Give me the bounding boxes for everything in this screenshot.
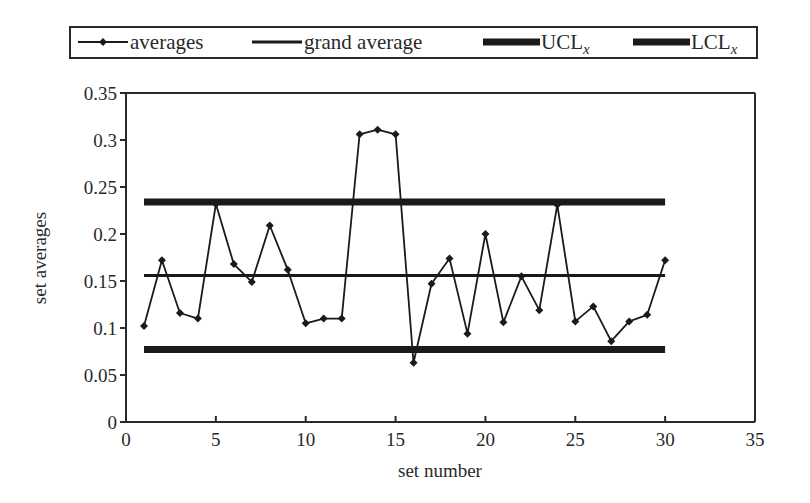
data-point-diamond-icon [140, 322, 148, 330]
data-point-diamond-icon [481, 230, 489, 238]
legend-label-averages: averages [130, 30, 203, 54]
data-point-diamond-icon [374, 126, 382, 134]
data-point-diamond-icon [661, 256, 669, 264]
y-tick-label: 0.3 [93, 130, 117, 151]
y-tick-label: 0.25 [84, 177, 117, 198]
y-tick-label: 0.35 [84, 83, 117, 104]
data-point-diamond-icon [194, 315, 202, 323]
data-point-diamond-icon [320, 315, 328, 323]
data-point-diamond-icon [535, 306, 543, 314]
data-point-diamond-icon [499, 318, 507, 326]
x-axis-title: set number [398, 460, 483, 481]
x-tick-label: 15 [386, 429, 405, 450]
control-chart: averages grand average UCLx LCLx 00.050.… [0, 0, 810, 503]
x-tick-label: 10 [296, 429, 315, 450]
data-point-diamond-icon [410, 359, 418, 367]
data-point-diamond-icon [643, 311, 651, 319]
data-point-diamond-icon [176, 309, 184, 317]
x-tick-label: 0 [121, 429, 131, 450]
series-layer [140, 126, 669, 367]
x-tick-label: 25 [566, 429, 585, 450]
x-tick-label: 5 [211, 429, 221, 450]
legend-label-grand-average: grand average [304, 30, 422, 54]
y-tick-label: 0.2 [93, 224, 117, 245]
data-point-diamond-icon [392, 130, 400, 138]
y-axis-ticks: 00.050.10.150.20.250.30.35 [84, 83, 126, 433]
x-tick-label: 35 [746, 429, 765, 450]
data-point-diamond-icon [266, 222, 274, 230]
y-tick-label: 0.15 [84, 271, 117, 292]
y-axis-title: set averages [29, 212, 50, 304]
plot-area [126, 93, 755, 422]
data-point-diamond-icon [463, 330, 471, 338]
data-point-diamond-icon [356, 130, 364, 138]
data-point-diamond-icon [284, 266, 292, 274]
x-tick-label: 30 [656, 429, 675, 450]
x-tick-label: 20 [476, 429, 495, 450]
data-point-diamond-icon [517, 272, 525, 280]
data-point-diamond-icon [158, 256, 166, 264]
legend-label-lcl: LCLx [691, 30, 738, 57]
y-tick-label: 0.05 [84, 365, 117, 386]
legend-label-ucl: UCLx [541, 30, 590, 57]
series-averages [140, 126, 669, 367]
legend: averages grand average UCLx LCLx [70, 27, 757, 58]
data-point-diamond-icon [338, 315, 346, 323]
y-tick-label: 0.1 [93, 318, 117, 339]
data-point-diamond-icon [302, 319, 310, 327]
y-tick-label: 0 [108, 412, 118, 433]
